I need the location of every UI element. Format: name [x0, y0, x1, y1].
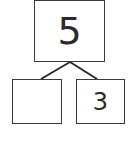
part-right-value: 3	[93, 88, 108, 116]
whole-value: 5	[57, 9, 81, 53]
part-left-box[interactable]	[12, 79, 62, 124]
part-right-box: 3	[76, 79, 125, 124]
whole-box: 5	[34, 0, 105, 62]
